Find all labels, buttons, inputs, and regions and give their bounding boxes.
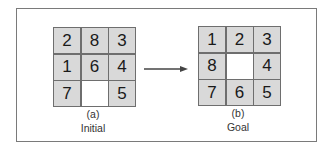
goal-tag: (b): [193, 106, 283, 120]
puzzle-tile: 5: [254, 80, 280, 105]
puzzle-tile: 6: [82, 55, 108, 80]
puzzle-tile: 4: [254, 54, 280, 79]
goal-puzzle-grid: 1 2 3 8 4 7 6 5: [198, 26, 281, 106]
puzzle-tile: 4: [109, 55, 135, 80]
initial-label: (a) Initial: [48, 107, 138, 135]
blank-tile: [227, 54, 253, 79]
puzzle-tile: 2: [54, 28, 80, 53]
puzzle-tile: 1: [54, 55, 80, 80]
blank-tile: [82, 81, 108, 106]
initial-caption: Initial: [48, 121, 138, 135]
puzzle-tile: 5: [109, 81, 135, 106]
initial-puzzle-grid: 2 8 3 1 6 4 7 5: [53, 27, 136, 107]
puzzle-tile: 6: [227, 80, 253, 105]
goal-caption: Goal: [193, 120, 283, 134]
puzzle-tile: 2: [227, 27, 253, 52]
puzzle-tile: 7: [54, 81, 80, 106]
puzzle-tile: 3: [254, 27, 280, 52]
right-arrow-icon: [144, 65, 188, 73]
puzzle-tile: 8: [82, 28, 108, 53]
puzzle-tile: 8: [199, 54, 225, 79]
goal-label: (b) Goal: [193, 106, 283, 134]
puzzle-tile: 7: [199, 80, 225, 105]
puzzle-tile: 3: [109, 28, 135, 53]
initial-tag: (a): [48, 107, 138, 121]
puzzle-tile: 1: [199, 27, 225, 52]
